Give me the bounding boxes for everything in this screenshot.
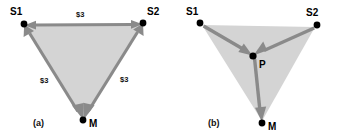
panel-a-cost-left: $3	[40, 76, 48, 85]
panel-a-caption: (a)	[33, 118, 44, 128]
panel-b-label-s2: S2	[306, 7, 319, 18]
panel-a-label-s2: S2	[147, 6, 160, 17]
panel-b-node-s1[interactable]	[197, 20, 204, 27]
panel-b-label-p: P	[259, 59, 266, 70]
panel-b-node-s2[interactable]	[314, 22, 321, 29]
panel-a-label-s1: S1	[10, 6, 23, 17]
panel-b-label-m: M	[268, 121, 276, 132]
panel-b-node-m[interactable]	[259, 120, 266, 127]
panel-a-node-s2[interactable]	[140, 20, 147, 27]
panel-b-caption: (b)	[208, 118, 220, 128]
diagram-canvas: S1 S2 M $3 $3 $3 (a)	[0, 0, 340, 140]
panel-a-cost-top: $3	[76, 10, 84, 19]
figure-container: S1 S2 M $3 $3 $3 (a)	[0, 0, 340, 140]
panel-a-node-s1[interactable]	[21, 21, 28, 28]
panel-b-label-s1: S1	[186, 6, 199, 17]
panel-a-cost-right: $3	[120, 75, 128, 84]
panel-a-label-m: M	[89, 118, 97, 129]
panel-b-node-p[interactable]	[249, 52, 256, 59]
panel-a-node-m[interactable]	[80, 117, 87, 124]
